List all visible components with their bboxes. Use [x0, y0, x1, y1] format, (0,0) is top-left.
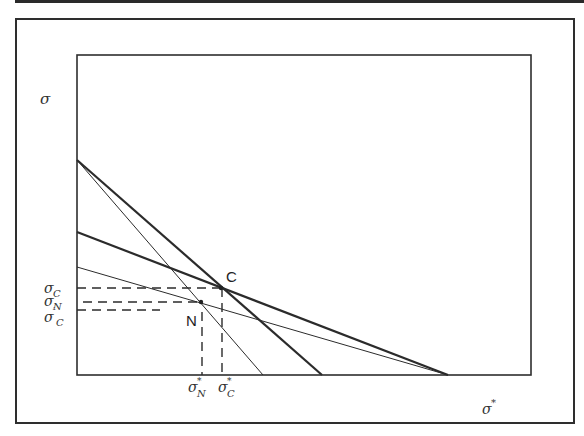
x-axis-label-star: *: [491, 397, 496, 408]
x-tick-sigma-c-star: σ * C: [218, 376, 235, 399]
curve-lines: [77, 160, 448, 375]
thick-line-flat: [77, 232, 448, 375]
thick-line-steep: [77, 160, 322, 375]
svg-text:N: N: [196, 388, 207, 399]
point-n-label: N: [186, 312, 197, 329]
svg-text:*: *: [197, 376, 202, 386]
thin-line-flat: [77, 267, 448, 375]
x-tick-sigma-n-star: σ * N: [188, 376, 207, 399]
point-c-label: C: [226, 268, 237, 285]
y-axis-label: σ: [40, 90, 51, 108]
svg-text:C: C: [56, 317, 64, 328]
svg-text:C: C: [227, 388, 235, 399]
diagram-canvas: C N σ σ * σ C σ N σ ′ C σ * N σ * C: [0, 0, 584, 436]
point-c-marker: [219, 286, 223, 290]
svg-text:*: *: [227, 376, 232, 386]
point-n-marker: [199, 300, 203, 304]
plot-box: [77, 55, 531, 375]
svg-text:C: C: [53, 288, 61, 299]
